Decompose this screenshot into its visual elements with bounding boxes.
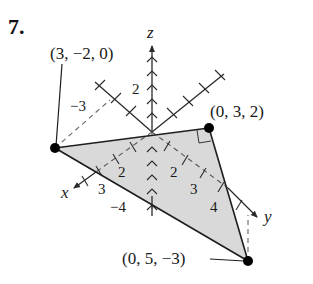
tick-x-2: 2 bbox=[118, 165, 126, 180]
point-label-3: (0, 5, −3) bbox=[122, 250, 185, 267]
3d-triangle-diagram: 7. bbox=[0, 0, 313, 284]
tick-z-neg4: −4 bbox=[110, 200, 126, 215]
point-0-5-neg3 bbox=[243, 256, 253, 266]
tick-y-4: 4 bbox=[210, 200, 218, 215]
z-axis-label: z bbox=[147, 24, 154, 41]
tick-x-3: 3 bbox=[98, 182, 106, 197]
tick-z-2: 2 bbox=[132, 82, 140, 97]
point-label-1: (3, −2, 0) bbox=[50, 45, 113, 62]
diagram-canvas bbox=[0, 0, 313, 284]
point-3-neg2-0 bbox=[50, 143, 60, 153]
leader-point-3 bbox=[210, 259, 244, 261]
x-axis-label: x bbox=[61, 184, 69, 201]
point-0-3-2 bbox=[204, 123, 214, 133]
point-label-2: (0, 3, 2) bbox=[210, 103, 264, 120]
leader-point-1 bbox=[56, 64, 62, 146]
tick-y-neg3: −3 bbox=[70, 99, 86, 114]
tick-y-2: 2 bbox=[170, 165, 178, 180]
y-axis-label: y bbox=[264, 208, 272, 225]
y-axis-negative bbox=[95, 82, 152, 132]
tick-y-3: 3 bbox=[190, 182, 198, 197]
